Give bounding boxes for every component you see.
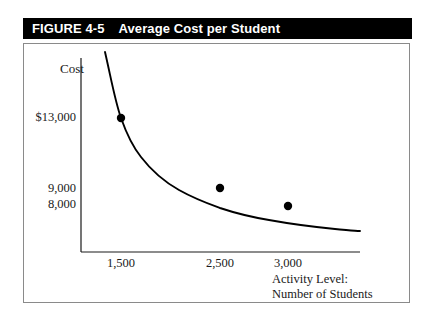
y-tick-label-8000: 8,000	[16, 197, 76, 212]
figure-number-label: FIGURE 4-5	[32, 21, 105, 36]
data-point-marker	[216, 184, 224, 192]
y-tick-label-13000: $13,000	[16, 110, 76, 125]
y-tick-label-9000: 9,000	[16, 181, 76, 196]
x-axis-title-line-2: Number of Students	[272, 287, 373, 302]
x-tick-label-1500: 1,500	[91, 256, 151, 271]
x-axis-title: Activity Level: Number of Students	[272, 272, 373, 302]
y-axis-title: Cost	[60, 61, 84, 77]
data-point-marker	[284, 202, 292, 210]
x-tick-label-2500: 2,500	[190, 256, 250, 271]
data-point-marker	[117, 114, 125, 122]
figure-caption-label: Average Cost per Student	[119, 21, 281, 36]
x-axis-title-line-1: Activity Level:	[272, 272, 373, 287]
figure-container: FIGURE 4-5 Average Cost per Student Cost…	[0, 0, 434, 322]
figure-title-bar: FIGURE 4-5 Average Cost per Student	[23, 18, 412, 39]
cost-curve	[105, 52, 360, 231]
x-tick-label-3000: 3,000	[258, 256, 318, 271]
